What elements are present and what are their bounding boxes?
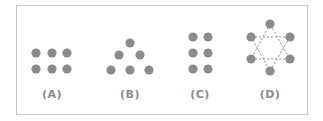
- dot: [125, 65, 134, 74]
- dashed-triangle: [251, 37, 290, 71]
- dot: [125, 38, 134, 47]
- dot: [62, 48, 71, 57]
- dot: [31, 48, 40, 57]
- panel-d-label: (D): [260, 88, 281, 101]
- dot: [135, 50, 144, 59]
- dot: [188, 64, 197, 73]
- dot: [265, 66, 274, 75]
- dot: [246, 54, 255, 63]
- panel-a-dots: [31, 48, 71, 73]
- panel-d-dots: [246, 19, 294, 75]
- panel-a-label: (A): [42, 88, 62, 101]
- dot: [188, 32, 197, 41]
- panel-b-label: (B): [120, 88, 140, 101]
- dot: [47, 48, 56, 57]
- dot: [144, 65, 153, 74]
- dot: [285, 32, 294, 41]
- dot: [106, 65, 115, 74]
- dot: [246, 32, 255, 41]
- dashed-triangle: [251, 24, 290, 59]
- dot: [31, 64, 40, 73]
- panel-b-dots: [106, 38, 153, 74]
- panel-c-dots: [188, 32, 212, 73]
- dot: [188, 48, 197, 57]
- dot: [62, 64, 71, 73]
- dot: [203, 48, 212, 57]
- panel-c-label: (C): [190, 88, 210, 101]
- dot: [265, 19, 274, 28]
- dot: [47, 64, 56, 73]
- dot: [285, 54, 294, 63]
- panel-d-dashed-triangles: [251, 24, 290, 71]
- dot: [114, 50, 123, 59]
- dot: [203, 64, 212, 73]
- dot: [203, 32, 212, 41]
- dot-arrangements: [0, 0, 323, 121]
